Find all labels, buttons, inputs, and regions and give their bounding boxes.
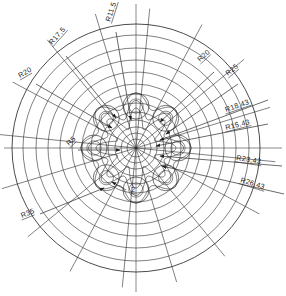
dimension-leader-line <box>66 56 116 118</box>
dimension-leader-line <box>160 72 214 122</box>
dimension-label: R11,5 <box>103 1 118 23</box>
radial-spoke <box>95 14 136 148</box>
radial-spoke <box>2 148 136 189</box>
radial-spoke <box>70 148 136 271</box>
drawing-canvas: R17,5R11,5R20R20R25R18,43R15,43R23,43R26… <box>0 0 286 296</box>
centerlines-group <box>4 4 282 292</box>
technical-drawing-svg: R17,5R11,5R20R20R25R18,43R15,43R23,43R26… <box>0 0 286 296</box>
dimension-leader-line <box>162 166 284 194</box>
radial-spoke <box>47 40 136 148</box>
dimension-label: 2 <box>131 185 135 194</box>
radial-spoke <box>136 25 202 148</box>
dimension-leader-line <box>36 84 112 128</box>
dimension-labels-group: R17,5R11,5R20R20R25R18,43R15,43R23,43R26… <box>17 1 266 220</box>
radial-spoke <box>136 148 225 256</box>
dimension-label: R5 <box>64 134 77 147</box>
dimension-leader-line <box>40 188 104 214</box>
dimension-label: R17,5 <box>47 25 68 46</box>
radial-spoke <box>28 148 136 237</box>
